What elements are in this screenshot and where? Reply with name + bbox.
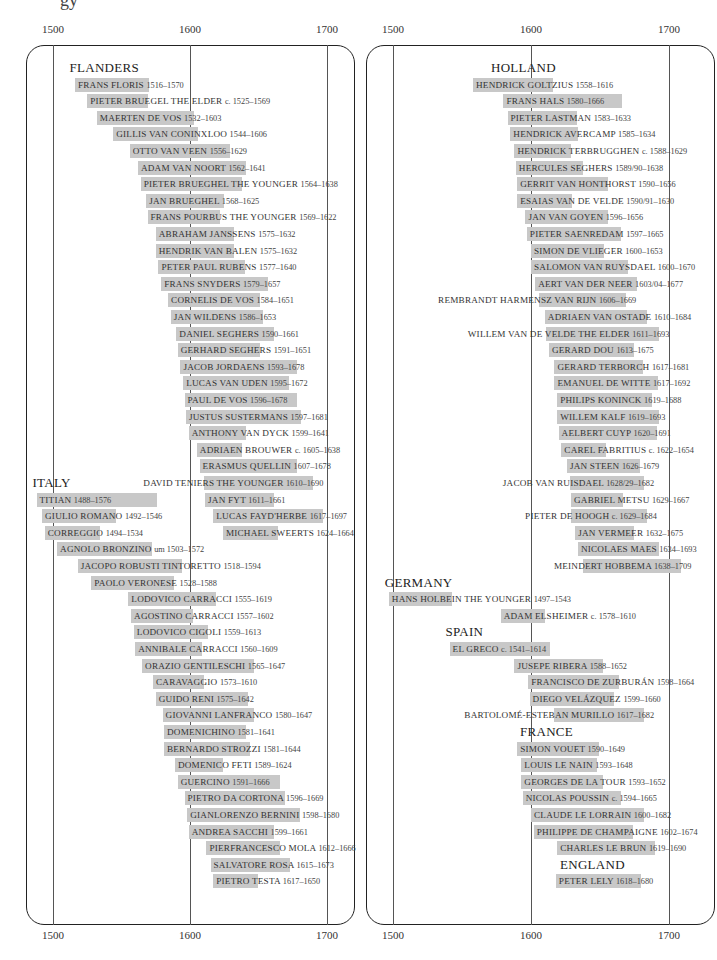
axis-tick-top-1600: 1600	[520, 23, 542, 35]
artist-label: HANS HOLBEIN THE YOUNGER 1497–1543	[392, 592, 571, 607]
artist-name: GERRIT VAN HONTHORST	[520, 179, 638, 189]
artist-years: 1617–1692	[653, 379, 690, 388]
artist-name: WILLEM KALF	[560, 412, 628, 422]
artist-name: JACOB JORDAENS	[183, 362, 267, 372]
artist-name: NICOLAES MAES	[581, 544, 659, 554]
artist-label: AGNOLO BRONZINO um 1503–1572	[60, 542, 204, 557]
artist-label: FRANS FLORIS 1516–1570	[78, 78, 184, 93]
artist-years: 1612–1666	[318, 844, 355, 853]
artist-years: 1615–1673	[297, 861, 334, 870]
artist-name: JAN FYT	[208, 495, 248, 505]
artist-name: PIETER DE HOOGH	[525, 511, 612, 521]
artist-name: SIMON DE VLIEGER	[534, 246, 625, 256]
artist-name: HENDRICK GOLTZIUS	[476, 80, 576, 90]
artist-years: 1568–1625	[222, 197, 259, 206]
artist-years: 1617–1650	[283, 877, 320, 886]
artist-name: AELBERT CUYP	[562, 428, 634, 438]
artist-years: c. 1541–1614	[501, 645, 546, 654]
artist-name: GERHARD SEGHERS	[181, 345, 274, 355]
artist-label: JAN VAN GOYEN 1596–1656	[528, 210, 643, 225]
artist-name: DANIEL SEGHERS	[179, 329, 261, 339]
artist-years: 1532–1603	[184, 114, 221, 123]
artist-label: JUSTUS SUSTERMANS 1597–1681	[189, 410, 328, 425]
artist-years: 1528–1588	[180, 579, 217, 588]
artist-years: 1617–1681	[652, 363, 689, 372]
artist-name: LOUIS LE NAIN	[524, 760, 595, 770]
artist-label: FRANS HALS 1580–1666	[506, 94, 604, 109]
artist-name: LUCAS FAYD'HERBE	[216, 511, 309, 521]
artist-years: 1580–1647	[275, 711, 312, 720]
artist-label: AELBERT CUYP 1620–1691	[562, 426, 671, 441]
artist-label: JAN BRUEGHEL 1568–1625	[149, 194, 259, 209]
artist-label: TITIAN 1488–1576	[40, 493, 112, 508]
axis-tick-bottom-1500: 1500	[382, 929, 404, 941]
artist-label: HENDRICK GOLTZIUS 1558–1616	[476, 78, 613, 93]
artist-years: 1600–1682	[634, 811, 671, 820]
artist-label: FRANS POURBUS THE YOUNGER 1569–1622	[151, 210, 337, 225]
artist-label: JACOB VAN RUISDAEL 1628/29–1682	[503, 476, 654, 491]
artist-name: MAERTEN DE VOS	[100, 113, 184, 123]
artist-name: PHILIPS KONINCK	[560, 395, 644, 405]
artist-name: GILLIS VAN CONINXLOO	[116, 129, 229, 139]
artist-label: FRANCISCO DE ZURBURÁN 1598–1664	[531, 675, 694, 690]
artist-name: JAN STEEN	[570, 461, 622, 471]
artist-name: GERARD TERBORCH	[557, 362, 651, 372]
artist-name: PIETER SAENREDAM	[530, 229, 626, 239]
artist-label: ADAM ELSHEIMER c. 1578–1610	[504, 609, 636, 624]
artist-years: 1606–1669	[599, 296, 636, 305]
artist-years: 1596–1669	[286, 794, 323, 803]
artist-years: 1634–1693	[659, 545, 696, 554]
artist-years: 1617–1682	[617, 711, 654, 720]
artist-years: 1596–1656	[606, 213, 643, 222]
artist-name: LODOVICO CIGOLI	[137, 627, 224, 637]
artist-years: um 1503–1572	[154, 545, 204, 554]
artist-label: AGOSTINO CARRACCI 1557–1602	[134, 609, 273, 624]
region-heading: FRANCE	[520, 724, 573, 740]
artist-label: PIERFRANCESCO MOLA 1612–1666	[209, 841, 355, 856]
artist-years: 1590/91–1630	[626, 197, 674, 206]
artist-years: 1494–1534	[106, 529, 143, 538]
artist-name: FRANS POURBUS THE YOUNGER	[151, 212, 300, 222]
artist-name: EMANUEL DE WITTE	[557, 378, 653, 388]
artist-name: GEORGES DE LA TOUR	[524, 777, 628, 787]
artist-name: FRANCISCO DE ZURBURÁN	[531, 677, 657, 687]
artist-years: 1562–1641	[228, 164, 265, 173]
region-heading: SPAIN	[445, 624, 483, 640]
artist-name: LUCAS VAN UDEN	[186, 378, 270, 388]
artist-label: JAN WILDENS 1586–1653	[174, 310, 276, 325]
artist-years: c. 1594–1665	[612, 794, 657, 803]
artist-name: HENDRICK TERBRUGGHEN	[517, 146, 642, 156]
artist-name: ADAM ELSHEIMER	[504, 611, 591, 621]
artist-label: JUSEPE RIBERA 1588–1652	[517, 659, 627, 674]
artist-label: ESAIAS VAN DE VELDE 1590/91–1630	[520, 194, 674, 209]
artist-name: OTTO VAN VEEN	[133, 146, 210, 156]
artist-label: MEINDERT HOBBEMA 1638–1709	[554, 559, 692, 574]
artist-label: ANNIBALE CARRACCI 1560–1609	[138, 642, 277, 657]
artist-name: PIETER BRUEGEL THE ELDER	[90, 96, 225, 106]
artist-name: JUSTUS SUSTERMANS	[189, 412, 291, 422]
artist-name: REMBRANDT HARMENSZ VAN RIJN	[438, 295, 599, 305]
artist-label: NICOLAES MAES 1634–1693	[581, 542, 697, 557]
artist-name: ANTHONY VAN DYCK	[192, 428, 292, 438]
artist-label: DOMENICHINO 1581–1641	[167, 725, 275, 740]
artist-years: 1581–1641	[238, 728, 275, 737]
artist-label: CORREGGIO 1494–1534	[48, 526, 143, 541]
artist-years: 1579–1657	[243, 280, 280, 289]
artist-years: 1589–1624	[254, 761, 291, 770]
artist-label: CAREL FABRITIUS c. 1622–1654	[564, 443, 694, 458]
region-heading: ENGLAND	[560, 857, 625, 873]
artist-label: GABRIEL METSU 1629–1667	[574, 493, 689, 508]
artist-years: 1556–1629	[210, 147, 247, 156]
artist-years: 1599–1661	[271, 828, 308, 837]
artist-label: LUCAS VAN UDEN 1595–1672	[186, 376, 307, 391]
region-heading: GERMANY	[385, 575, 453, 591]
artist-years: 1581–1644	[263, 745, 300, 754]
artist-name: CARAVAGGIO	[156, 677, 220, 687]
artist-name: ERASMUS QUELLIN	[203, 461, 294, 471]
artist-name: MICHAEL SWEERTS	[226, 528, 317, 538]
artist-years: 1575–1642	[217, 695, 254, 704]
artist-years: 1555–1619	[234, 595, 271, 604]
artist-years: 1575–1632	[258, 230, 295, 239]
artist-name: ABRAHAM JANSSENS	[159, 229, 258, 239]
artist-years: 1632–1675	[646, 529, 683, 538]
